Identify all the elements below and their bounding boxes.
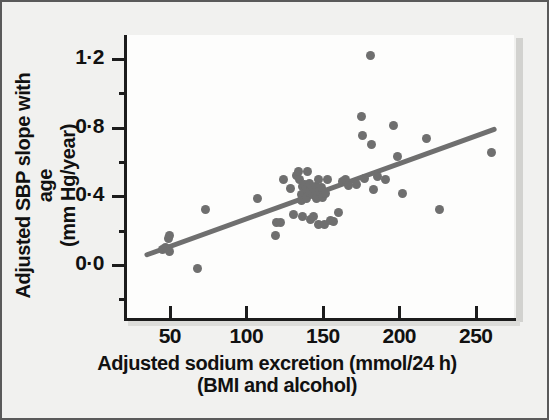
y-axis-title: Adjusted SBP slope with age (mm Hg/year) [12, 56, 79, 316]
x-tick-major [169, 306, 172, 321]
scatter-point [321, 189, 330, 198]
y-tick-minor [119, 161, 127, 164]
x-tick-major [245, 306, 248, 321]
scatter-point [357, 112, 366, 121]
x-axis-line [124, 318, 516, 321]
y-tick-major [112, 195, 127, 198]
scatter-point [435, 205, 444, 214]
y-axis-title-line2: (mm Hg/year) [57, 56, 79, 316]
scatter-point [393, 152, 402, 161]
y-tick-minor [119, 298, 127, 301]
scatter-point [165, 231, 174, 240]
y-tick-major [112, 127, 127, 130]
scatter-point [369, 185, 378, 194]
y-tick-major [112, 58, 127, 61]
scatter-point [367, 140, 376, 149]
y-axis-line [124, 35, 127, 321]
scatter-point [398, 189, 407, 198]
scatter-point [422, 134, 431, 143]
scatter-point [389, 121, 398, 130]
scatter-point [381, 175, 390, 184]
scatter-point [323, 175, 332, 184]
plot-area [124, 35, 514, 320]
x-tick-label: 150 [288, 324, 358, 348]
scatter-point [286, 184, 295, 193]
x-tick-major [475, 306, 478, 321]
scatter-point [358, 131, 367, 140]
scatter-point [193, 264, 202, 273]
x-axis-title-line1: Adjusted sodium excretion (mmol/24 h) [22, 352, 532, 374]
scatter-point [271, 231, 280, 240]
scatter-point [487, 148, 496, 157]
y-tick-major [112, 264, 127, 267]
x-tick-major [398, 306, 401, 321]
scatter-point [289, 210, 298, 219]
x-axis-title: Adjusted sodium excretion (mmol/24 h) (B… [22, 352, 532, 397]
scatter-point [360, 174, 369, 183]
scatter-point [276, 218, 285, 227]
scatter-point [165, 247, 174, 256]
scatter-point [201, 205, 210, 214]
scatter-point [334, 208, 343, 217]
figure-container: 0·00·40·81·2 50100150200250 Adjusted SBP… [0, 0, 549, 420]
figure-inner: 0·00·40·81·2 50100150200250 Adjusted SBP… [2, 2, 547, 418]
y-tick-minor [119, 92, 127, 95]
x-axis-title-line2: (BMI and alcohol) [22, 374, 532, 396]
scatter-point [352, 180, 361, 189]
scatter-point [253, 194, 262, 203]
scatter-point [366, 51, 375, 60]
x-tick-label: 200 [364, 324, 434, 348]
x-tick-label: 100 [211, 324, 281, 348]
x-tick-label: 50 [135, 324, 205, 348]
y-tick-minor [119, 230, 127, 233]
x-tick-label: 250 [441, 324, 511, 348]
y-axis-title-line1: Adjusted SBP slope with age [12, 56, 57, 316]
scatter-point [329, 217, 338, 226]
scatter-point [279, 175, 288, 184]
x-tick-major [322, 306, 325, 321]
panel-shadow-right [516, 38, 523, 322]
scatter-point [303, 167, 312, 176]
